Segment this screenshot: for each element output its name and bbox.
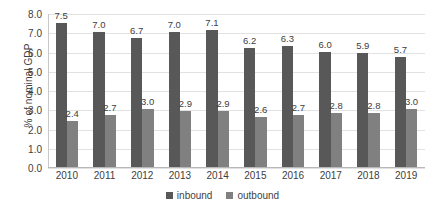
bar-outbound[interactable] [255,117,266,167]
bar-inbound[interactable] [395,57,406,167]
bar-value-label-inbound: 7.0 [92,19,105,30]
gridline [48,168,425,169]
bar-value-label-inbound: 5.9 [356,40,369,51]
bar-group: 6.73.0 [131,14,154,167]
bar-value-label-inbound: 7.1 [205,17,218,28]
bar-value-label-outbound: 2.8 [330,100,343,111]
x-tick-label: 2018 [357,170,379,181]
bar-value-label-outbound: 2.9 [179,98,192,109]
bar-value-label-outbound: 2.4 [66,108,79,119]
bar-group: 6.02.8 [319,14,342,167]
chart-legend: inboundoutbound [0,190,445,201]
legend-entry-inbound[interactable]: inbound [166,190,213,201]
x-tick-label: 2010 [56,170,78,181]
bar-value-label-inbound: 6.0 [318,39,331,50]
bar-inbound[interactable] [56,23,67,167]
bar-group: 5.73.0 [395,14,418,167]
bar-outbound[interactable] [180,111,191,167]
bar-value-label-outbound: 2.8 [367,100,380,111]
legend-entry-outbound[interactable]: outbound [226,190,279,201]
bar-value-label-outbound: 2.6 [254,104,267,115]
legend-label: outbound [237,190,279,201]
y-tick-label: 2.0 [28,124,42,135]
bar-value-label-inbound: 7.5 [55,10,68,21]
bars-layer: 7.52.47.02.76.73.07.02.97.12.96.22.66.32… [48,14,425,168]
bar-outbound[interactable] [105,115,116,167]
bar-outbound[interactable] [331,113,342,167]
bar-value-label-inbound: 7.0 [168,19,181,30]
x-tick-label: 2019 [395,170,417,181]
bar-outbound[interactable] [67,121,78,167]
legend-label: inbound [177,190,213,201]
bar-value-label-inbound: 6.7 [130,25,143,36]
bar-group: 5.92.8 [357,14,380,167]
bar-value-label-inbound: 5.7 [394,44,407,55]
x-tick-label: 2011 [94,170,116,181]
bar-outbound[interactable] [406,109,417,167]
bar-outbound[interactable] [293,115,304,167]
bar-group: 7.02.7 [93,14,116,167]
bar-value-label-outbound: 2.7 [103,102,116,113]
bar-value-label-outbound: 3.0 [405,96,418,107]
bar-group: 7.02.9 [169,14,192,167]
x-tick-label: 2012 [131,170,153,181]
bar-value-label-inbound: 6.2 [243,35,256,46]
bar-value-label-outbound: 2.7 [292,102,305,113]
y-tick-label: 5.0 [28,66,42,77]
y-tick-label: 3.0 [28,105,42,116]
x-axis-tick-labels: 2010201120122013201420152016201720182019 [48,170,425,186]
bar-chart: % of nominal GDP 0.01.02.03.04.05.06.07.… [0,0,445,214]
y-tick-label: 6.0 [28,47,42,58]
y-tick-label: 0.0 [28,163,42,174]
y-tick-label: 8.0 [28,9,42,20]
y-tick-label: 7.0 [28,28,42,39]
y-tick-label: 1.0 [28,143,42,154]
bar-value-label-inbound: 6.3 [281,33,294,44]
y-tick-label: 4.0 [28,86,42,97]
bar-value-label-outbound: 3.0 [141,96,154,107]
plot-area: 7.52.47.02.76.73.07.02.97.12.96.22.66.32… [48,14,425,168]
x-tick-label: 2017 [320,170,342,181]
bar-group: 6.22.6 [244,14,267,167]
bar-group: 7.52.4 [56,14,79,167]
bar-group: 7.12.9 [206,14,229,167]
bar-inbound[interactable] [93,32,104,167]
x-tick-label: 2013 [169,170,191,181]
x-tick-label: 2014 [207,170,229,181]
bar-outbound[interactable] [368,113,379,167]
bar-outbound[interactable] [142,109,153,167]
bar-group: 6.32.7 [282,14,305,167]
legend-swatch-icon [226,192,233,199]
bar-value-label-outbound: 2.9 [216,98,229,109]
x-tick-label: 2015 [244,170,266,181]
y-axis-tick-labels: 0.01.02.03.04.05.06.07.08.0 [8,14,42,168]
x-tick-label: 2016 [282,170,304,181]
bar-outbound[interactable] [218,111,229,167]
legend-swatch-icon [166,192,173,199]
